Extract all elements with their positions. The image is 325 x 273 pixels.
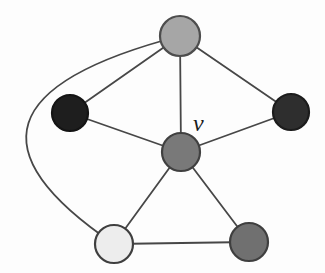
node-bottom-right [230, 223, 268, 261]
node-bottom-left [95, 225, 133, 263]
graph-svg: v [0, 0, 325, 273]
nodes-layer [52, 16, 309, 263]
vertex-label: v [193, 110, 204, 136]
node-center [162, 133, 200, 171]
edges-layer [26, 36, 291, 244]
edge-top-bottom-left [26, 36, 180, 244]
node-right [273, 94, 309, 130]
edge-bottom-left-bottom-right [114, 242, 249, 244]
graph-figure: v [0, 0, 325, 273]
node-left [52, 95, 88, 131]
node-top [160, 16, 200, 56]
